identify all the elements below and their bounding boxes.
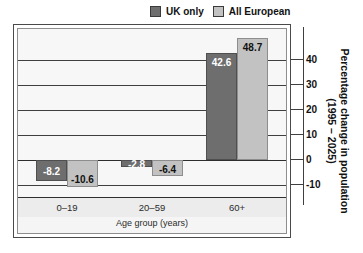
bar-value-0-19-all-european: -10.6 [71,174,94,185]
y-axis-spine [303,27,304,205]
y-tick-0 [291,159,303,160]
bar-60-plus-all-european[interactable]: 48.7 [237,38,268,160]
legend-swatch-uk-only [150,6,161,17]
legend-item-all-european: All European [213,6,291,17]
bar-chart-figure: UK only All European -8.2 [0,0,363,253]
legend-item-uk-only: UK only [150,6,204,17]
y-axis-title-text: Percentage change in population (1995 – … [325,48,351,213]
y-axis-title-line1: Percentage change in population [339,48,351,213]
bar-20-59-uk-only[interactable]: -2.8 [121,160,152,167]
y-tick-label-30: 30 [306,79,317,90]
y-axis-title: Percentage change in population (1995 – … [318,24,358,238]
y-tick-label-10: 10 [306,129,317,140]
y-axis-title-line2: (1995 – 2025) [326,98,338,163]
bar-0-19-uk-only[interactable]: -8.2 [36,160,67,181]
category-axis-band: 0–19 20–59 60+ [18,197,286,217]
bar-value-20-59-all-european: -6.4 [159,164,176,175]
bar-0-19-all-european[interactable]: -10.6 [67,160,98,187]
legend-label-all-european: All European [229,6,291,17]
category-label-0-19: 0–19 [36,202,98,213]
y-tick-label-40: 40 [306,54,317,65]
y-tick-10 [291,134,303,135]
bar-60-plus-uk-only[interactable]: 42.6 [206,53,237,160]
bar-20-59-all-european[interactable]: -6.4 [152,160,183,176]
legend-swatch-all-european [213,6,224,17]
y-tick-40 [291,59,303,60]
bar-value-60-plus-uk-only: 42.6 [212,57,231,68]
y-tick-30 [291,84,303,85]
y-tick-minus-10 [291,184,303,185]
chart-frame: -8.2 -10.6 -2.8 -6.4 42.6 [13,24,291,238]
category-label-20-59: 20–59 [121,202,183,213]
legend-label-uk-only: UK only [166,6,204,17]
x-axis-title: Age group (years) [18,218,286,229]
y-tick-label-0: 0 [306,154,312,165]
bar-value-60-plus-all-european: 48.7 [243,42,262,53]
bars-layer: -8.2 -10.6 -2.8 -6.4 42.6 [18,29,286,197]
plot-area: -8.2 -10.6 -2.8 -6.4 42.6 [18,29,286,197]
chart-frame-inner: -8.2 -10.6 -2.8 -6.4 42.6 [17,28,287,234]
y-tick-label-20: 20 [306,104,317,115]
bar-value-0-19-uk-only: -8.2 [43,166,60,177]
bar-value-20-59-uk-only: -2.8 [128,159,145,170]
chart-legend: UK only All European [150,3,350,19]
category-label-60-plus: 60+ [206,202,268,213]
y-tick-20 [291,109,303,110]
